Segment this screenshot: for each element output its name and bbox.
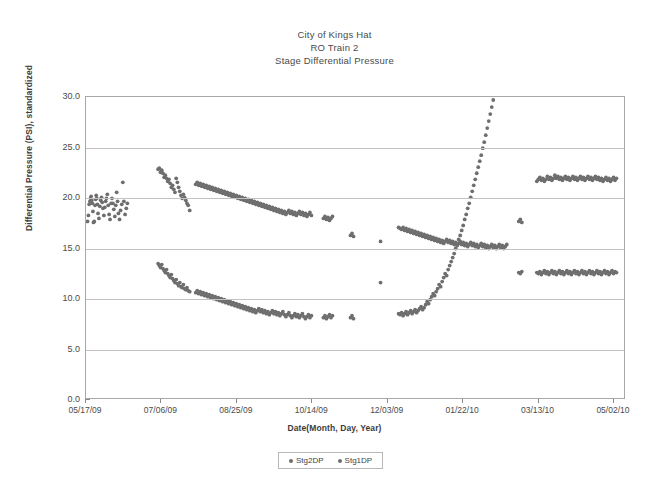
series-stg2dp [86, 166, 618, 250]
data-point [171, 183, 175, 187]
data-point [467, 201, 471, 205]
x-axis-tick-label: 03/13/10 [521, 405, 554, 415]
gridline-horizontal [86, 148, 624, 149]
data-point [455, 243, 459, 247]
y-axis-tick-label: 25.0 [40, 142, 80, 152]
data-point [488, 112, 492, 116]
gridline-horizontal [86, 350, 624, 351]
legend-entry-stg1dp[interactable]: Stg1DP [338, 456, 373, 465]
data-point [433, 294, 437, 298]
data-point [174, 278, 178, 282]
y-axis-tick-label: 30.0 [40, 91, 80, 101]
data-point [463, 218, 467, 222]
data-point [485, 126, 489, 130]
data-point [352, 235, 356, 239]
legend-marker-icon [289, 459, 293, 463]
data-point [188, 208, 192, 212]
data-point [379, 240, 383, 244]
x-axis-tick-label: 05/17/09 [68, 405, 101, 415]
gridline-horizontal [86, 249, 624, 250]
x-axis-tick-label: 07/06/09 [144, 405, 177, 415]
data-point [520, 270, 524, 274]
data-point [178, 281, 182, 285]
data-point [615, 271, 619, 275]
data-point [427, 302, 431, 306]
data-point [107, 213, 111, 217]
data-point [491, 98, 495, 102]
data-point [470, 189, 474, 193]
x-axis-tick-label: 05/02/10 [596, 405, 629, 415]
x-axis-tick-label: 12/03/09 [370, 405, 403, 415]
data-point [177, 185, 181, 189]
data-point [439, 285, 443, 289]
data-point [479, 153, 483, 157]
y-axis-title: Differential Pressure (PSI), standardize… [24, 43, 34, 253]
y-axis-ticks: 0.05.010.015.020.025.030.0 [38, 96, 80, 399]
chart-title-line-1: City of Kings Hat [0, 28, 669, 41]
x-axis-tick-mark [236, 399, 237, 403]
x-axis-tick-label: 01/22/10 [446, 405, 479, 415]
data-point [440, 280, 444, 284]
data-point [119, 208, 123, 212]
data-point [115, 190, 119, 194]
y-axis-tick-label: 15.0 [40, 243, 80, 253]
x-axis-tick-mark [538, 399, 539, 403]
data-point [91, 209, 95, 213]
data-point [310, 214, 314, 218]
data-point [460, 229, 464, 233]
x-axis-ticks: 05/17/0907/06/0908/25/0910/14/0912/03/09… [85, 399, 625, 419]
data-point [174, 176, 178, 180]
data-point [484, 133, 488, 137]
data-point [466, 206, 470, 210]
data-point [103, 205, 107, 209]
chart-title: City of Kings Hat RO Train 2 Stage Diffe… [0, 28, 669, 67]
legend-label: Stg2DP [296, 456, 324, 465]
data-point [113, 215, 117, 219]
data-point [118, 218, 122, 222]
legend-label: Stg1DP [345, 456, 373, 465]
data-point [446, 268, 450, 272]
data-point [451, 256, 455, 260]
x-axis-tick-mark [311, 399, 312, 403]
data-point [97, 217, 101, 221]
x-axis-tick-mark [160, 399, 161, 403]
data-point [92, 220, 96, 224]
data-point [379, 281, 383, 285]
data-point [105, 192, 109, 196]
series-stg1dp [156, 98, 618, 321]
data-point [478, 159, 482, 163]
data-point [96, 211, 100, 215]
data-point [520, 221, 524, 225]
data-point [98, 204, 102, 208]
data-point [310, 314, 314, 318]
x-axis-title: Date(Month, Day, Year) [0, 423, 669, 433]
data-point [490, 105, 494, 109]
y-axis-tick-label: 10.0 [40, 293, 80, 303]
gridline-horizontal [86, 299, 624, 300]
chart-legend: Stg2DPStg1DP [278, 452, 383, 469]
plot-area [85, 96, 625, 399]
data-point [331, 314, 335, 318]
data-point [461, 224, 465, 228]
y-axis-tick-label: 0.0 [40, 394, 80, 404]
data-point [175, 180, 179, 184]
x-axis-tick-label: 10/14/09 [295, 405, 328, 415]
data-point [615, 176, 619, 180]
data-point [121, 180, 125, 184]
data-point [123, 213, 127, 217]
data-point [476, 165, 480, 169]
data-point [100, 200, 104, 204]
data-point [445, 274, 449, 278]
data-point [116, 199, 120, 203]
data-point [124, 206, 128, 210]
legend-entry-stg2dp[interactable]: Stg2DP [289, 456, 324, 465]
data-point [448, 264, 452, 268]
data-point [173, 190, 177, 194]
data-point [114, 203, 118, 207]
data-point [473, 177, 477, 181]
y-axis-tick-label: 20.0 [40, 192, 80, 202]
data-point [457, 238, 461, 242]
chart-title-line-2: RO Train 2 [0, 41, 669, 54]
data-point [169, 273, 173, 277]
data-point [108, 218, 112, 222]
